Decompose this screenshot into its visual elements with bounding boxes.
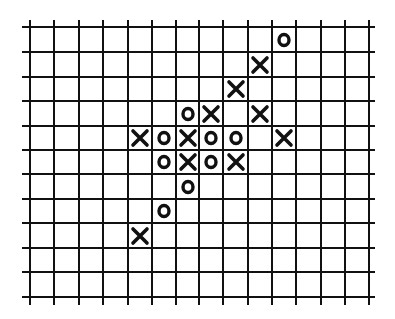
o-mark-icon (224, 126, 248, 150)
game-board[interactable] (0, 0, 395, 319)
o-mark-icon (272, 28, 296, 52)
o-mark-icon (176, 102, 200, 126)
grid-horizontal-line (22, 26, 375, 28)
grid-vertical-line (295, 20, 297, 305)
o-mark-icon (152, 150, 176, 174)
grid-horizontal-line (22, 76, 375, 78)
grid-vertical-line (127, 20, 129, 305)
grid-vertical-line (320, 20, 322, 305)
x-mark-icon (272, 126, 296, 150)
grid-horizontal-line (22, 51, 375, 53)
x-mark-icon (176, 150, 200, 174)
x-mark-icon (176, 126, 200, 150)
o-mark-icon (199, 150, 223, 174)
grid-horizontal-line (22, 296, 375, 298)
grid-vertical-line (102, 20, 104, 305)
grid-vertical-line (368, 20, 370, 305)
o-mark-icon (199, 126, 223, 150)
x-mark-icon (224, 150, 248, 174)
x-mark-icon (128, 126, 152, 150)
grid-vertical-line (29, 20, 31, 305)
grid-vertical-line (53, 20, 55, 305)
grid-horizontal-line (22, 247, 375, 249)
x-mark-icon (128, 224, 152, 248)
grid-vertical-line (78, 20, 80, 305)
grid-vertical-line (344, 20, 346, 305)
x-mark-icon (199, 102, 223, 126)
x-mark-icon (248, 102, 272, 126)
o-mark-icon (152, 126, 176, 150)
grid-horizontal-line (22, 271, 375, 273)
x-mark-icon (224, 77, 248, 101)
x-mark-icon (248, 53, 272, 77)
o-mark-icon (152, 199, 176, 223)
grid-horizontal-line (22, 222, 375, 224)
o-mark-icon (176, 175, 200, 199)
